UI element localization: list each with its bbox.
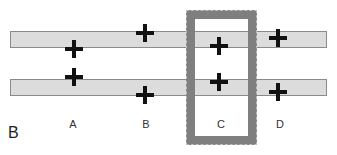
- plus-icon-d-top: [269, 29, 287, 47]
- plus-icon-c-top: [210, 37, 228, 55]
- column-label-c: C: [217, 118, 225, 130]
- plus-icon-b-top: [136, 24, 154, 42]
- column-label-a: A: [69, 118, 76, 130]
- plus-icon-a-bottom: [65, 68, 83, 86]
- plus-icon-d-bottom: [269, 83, 287, 101]
- column-label-b: B: [142, 118, 149, 130]
- column-label-d: D: [276, 118, 284, 130]
- plus-icon-b-bottom: [136, 86, 154, 104]
- plus-icon-a-top: [65, 40, 83, 58]
- panel-label: B: [8, 124, 19, 142]
- plus-icon-c-bottom: [210, 73, 228, 91]
